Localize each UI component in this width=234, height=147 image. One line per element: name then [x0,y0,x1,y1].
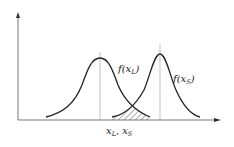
label-f-xl: f(xL) [117,63,140,76]
x-axis-label: xL,xS [106,125,133,138]
label-f-xs: f(xS) [172,73,195,86]
distribution-diagram: f(xL) f(xS) xL,xS [0,0,234,147]
y-axis [16,12,20,120]
y-axis-arrow-icon [16,12,20,18]
x-axis-arrow-icon [214,118,221,122]
left-distribution-curve [46,58,150,117]
overlap-hatched-region [110,100,152,121]
